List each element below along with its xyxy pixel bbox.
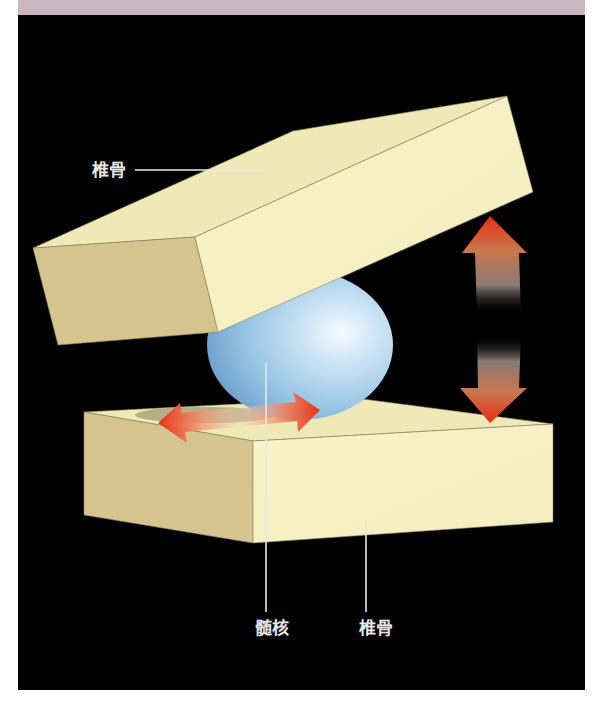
label-nucleus-pulposus: 髄核 xyxy=(255,618,289,638)
vertical-arrow-up-icon xyxy=(462,216,527,315)
label-lower-vertebra: 椎骨 xyxy=(359,618,393,638)
intervertebral-disc-diagram xyxy=(0,0,600,722)
lower-vertebra-block xyxy=(84,398,553,543)
lower-block-front-face xyxy=(253,424,553,543)
label-upper-vertebra: 椎骨 xyxy=(92,160,126,180)
upper-block-side-face xyxy=(33,237,218,345)
vertical-arrow-down-icon xyxy=(460,335,527,423)
